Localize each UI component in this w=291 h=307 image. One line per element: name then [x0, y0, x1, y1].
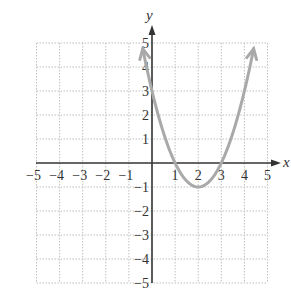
y-axis-label: y [144, 7, 153, 23]
x-tick-label: −2 [95, 168, 110, 183]
x-axis-arrow-icon [271, 160, 281, 167]
x-tick-label: −1 [118, 168, 133, 183]
y-tick-label: −5 [134, 276, 149, 291]
parabola-graph: x y −5−4−3−2−11234554321−1−2−3−4−5 [0, 0, 291, 307]
x-tick-label: 2 [195, 168, 202, 183]
y-tick-label: 1 [142, 132, 149, 147]
x-tick-label: 4 [241, 168, 248, 183]
y-tick-label: 3 [142, 84, 149, 99]
y-axis-arrow-icon [149, 25, 156, 35]
x-axis-label: x [282, 154, 290, 170]
y-tick-label: −1 [134, 180, 149, 195]
x-tick-label: 5 [264, 168, 271, 183]
x-tick-label: −4 [49, 168, 64, 183]
x-tick-label: −5 [26, 168, 41, 183]
y-tick-label: −2 [134, 204, 149, 219]
axes: x y [36, 7, 290, 283]
y-tick-label: 2 [142, 108, 149, 123]
y-tick-label: −4 [134, 252, 149, 267]
y-tick-label: −3 [134, 228, 149, 243]
x-tick-label: −3 [72, 168, 87, 183]
